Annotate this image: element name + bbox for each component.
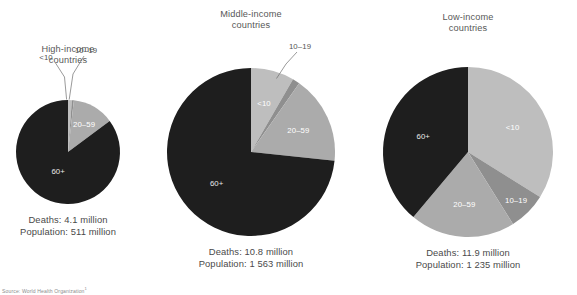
panel-title-line1: Middle-income [220,9,282,19]
pie-chart-figure: High-incomecountries<1010–1920–5960+Deat… [0,0,577,295]
source-note: Source: World Health Organization1 [2,287,87,294]
slice-label-60-: 60+ [210,179,224,188]
pie-charts-svg: High-incomecountries<1010–1920–5960+Deat… [0,0,577,295]
pie-panel-1: High-incomecountries<1010–1920–5960+Deat… [16,44,120,237]
population-caption: Population: 1 563 million [199,258,304,269]
slice-label-20-59: 20–59 [73,120,95,129]
slice-label-60-: 60+ [51,167,65,176]
deaths-caption: Deaths: 4.1 million [28,214,107,225]
population-caption: Population: 1 235 million [416,259,521,270]
leader-line--10 [56,63,67,100]
slice-label-20-59: 20–59 [453,200,475,209]
source-note-text: Source: World Health Organization [2,288,85,294]
slice-label-20-59: 20–59 [287,126,309,135]
slice-label-10-19: 10–19 [75,46,97,55]
slice-label--10: <10 [39,53,53,62]
population-caption: Population: 511 million [20,226,116,237]
panel-title-line2: countries [232,20,271,30]
slice-label-60-: 60+ [417,132,431,141]
source-note-reference: 1 [85,286,87,291]
pie-panel-2: Middle-incomecountries<1010–1920–5960+De… [167,9,335,269]
slice-label-10-19: 10–19 [505,196,527,205]
deaths-caption: Deaths: 10.8 million [209,246,293,257]
panel-title-line1: Low-income [442,12,493,22]
pie-panel-3: Low-incomecountries<1010–1920–5960+Death… [383,12,553,270]
deaths-caption: Deaths: 11.9 million [426,247,510,258]
slice-label--10: <10 [257,99,271,108]
slice-label--10: <10 [506,123,520,132]
panel-title-line2: countries [449,23,488,33]
slice-label-10-19: 10–19 [289,42,311,51]
